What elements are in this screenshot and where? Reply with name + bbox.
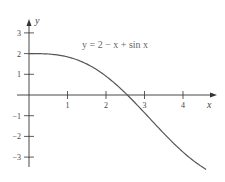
x-tick-label: 3 — [143, 101, 147, 110]
x-tick-label: 4 — [181, 101, 185, 110]
y-axis-label: y — [34, 15, 40, 26]
x-tick-label: 1 — [66, 101, 70, 110]
y-tick-label: 3 — [17, 29, 21, 38]
x-tick-label: 2 — [104, 101, 108, 110]
y-tick-label: −1 — [12, 112, 21, 121]
y-axis-arrow-icon — [27, 19, 32, 26]
function-curve — [29, 54, 206, 170]
y-tick-label: −2 — [12, 132, 21, 141]
function-plot: 1234321−1−2−3 y = 2 − x + sin x x y — [0, 0, 225, 182]
x-axis-label: x — [206, 99, 212, 110]
x-axis-arrow-icon — [210, 93, 217, 98]
y-tick-label: −3 — [12, 153, 21, 162]
equation-label: y = 2 − x + sin x — [82, 39, 148, 50]
y-tick-label: 2 — [17, 50, 21, 59]
y-tick-label: 1 — [17, 70, 21, 79]
